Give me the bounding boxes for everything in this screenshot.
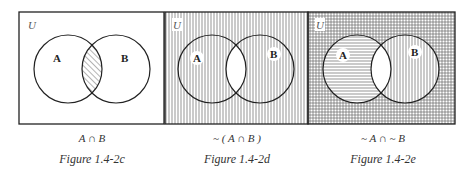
expression-caption: ~ A ∩ ~ B bbox=[333, 132, 433, 144]
universe-label: U bbox=[316, 19, 325, 31]
panel-1-4-2c: U A B bbox=[19, 12, 164, 124]
universe-label: U bbox=[28, 19, 37, 31]
set-a-label: A bbox=[193, 52, 201, 64]
set-b-label: B bbox=[411, 46, 419, 58]
figure-caption: Figure 1.4-2d bbox=[187, 152, 287, 167]
venn-diagram-figures: U A B U A B U A B bbox=[0, 0, 473, 174]
figure-caption: Figure 1.4-2c bbox=[42, 152, 142, 167]
universe-label: U bbox=[173, 19, 182, 31]
expression-caption: A ∩ B bbox=[42, 132, 142, 144]
set-b-label: B bbox=[270, 48, 278, 60]
complement-region bbox=[165, 12, 308, 124]
figure-caption: Figure 1.4-2e bbox=[333, 152, 433, 167]
set-b-label: B bbox=[121, 52, 129, 64]
panel-1-4-2e: U A B bbox=[308, 12, 455, 124]
set-a-label: A bbox=[53, 52, 61, 64]
panel-1-4-2d: U A B bbox=[165, 12, 308, 124]
set-a-label: A bbox=[339, 49, 347, 61]
expression-caption: ~ ( A ∩ B ) bbox=[187, 132, 287, 144]
